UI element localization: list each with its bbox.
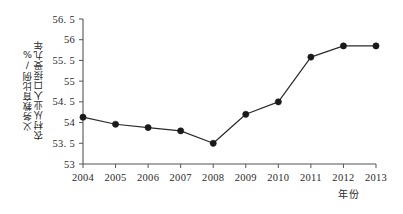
data-point	[243, 111, 249, 117]
y-tick-labels: 5353. 55454. 55555. 55656. 5	[53, 14, 76, 170]
data-point	[275, 99, 281, 105]
y-tick-label: 56. 5	[53, 14, 76, 25]
y-tick-label: 53. 5	[53, 138, 76, 149]
series-markers	[80, 43, 379, 147]
series-line	[83, 46, 376, 143]
data-point	[340, 43, 346, 49]
x-tick-label: 2006	[137, 172, 159, 183]
x-tick-label: 2012	[332, 172, 354, 183]
y-tick-label: 56	[64, 34, 75, 45]
y-tick-label: 53	[64, 159, 75, 170]
data-series-group	[80, 43, 379, 147]
y-tick-label: 55	[64, 76, 75, 87]
data-point	[80, 114, 86, 120]
data-point	[145, 124, 151, 130]
x-tick-label: 2009	[235, 172, 257, 183]
y-tick-label: 54. 5	[53, 96, 76, 107]
x-tick-label: 2013	[365, 172, 387, 183]
x-tick-label: 2010	[267, 172, 289, 183]
x-tick-label: 2008	[202, 172, 224, 183]
x-axis-group: 2004200520062007200820092010201120122013	[72, 164, 387, 183]
chart-canvas: 5353. 55454. 55555. 55656. 5 20042005200…	[0, 0, 403, 214]
x-tick-marks	[83, 164, 376, 168]
y-tick-label: 55. 5	[53, 55, 76, 66]
x-tick-label: 2011	[300, 172, 322, 183]
x-tick-labels: 2004200520062007200820092010201120122013	[72, 172, 387, 183]
line-chart: 5353. 55454. 55555. 55656. 5 20042005200…	[0, 0, 403, 214]
y-tick-label: 54	[64, 117, 76, 128]
x-tick-label: 2007	[170, 172, 192, 183]
x-tick-label: 2005	[104, 172, 126, 183]
x-tick-label: 2004	[72, 172, 95, 183]
data-point	[373, 43, 379, 49]
y-axis-group: 5353. 55454. 55555. 55656. 5	[53, 14, 84, 170]
data-point	[210, 140, 216, 146]
x-axis-title: 年份	[338, 186, 359, 201]
data-point	[308, 54, 314, 60]
y-tick-marks	[79, 19, 83, 164]
data-point	[178, 128, 184, 134]
data-point	[112, 121, 118, 127]
